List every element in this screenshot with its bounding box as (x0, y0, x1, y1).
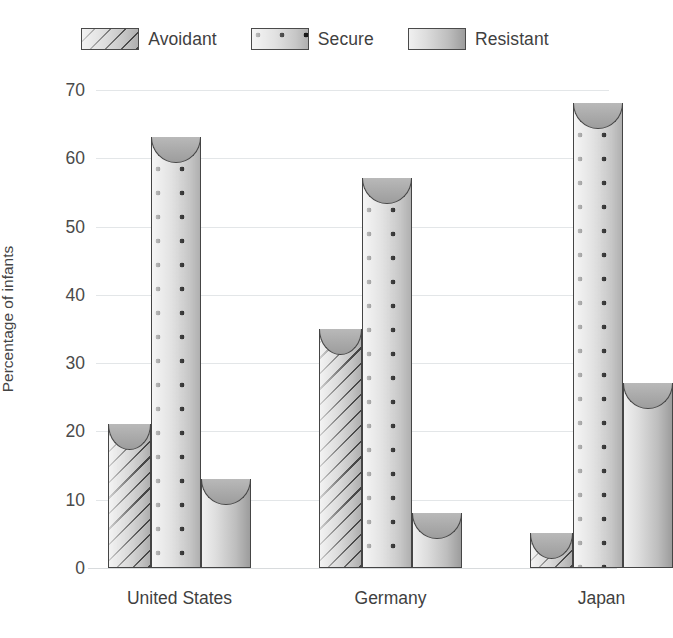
chart-legend: Avoidant Secure Resistant (0, 28, 630, 50)
bar-cylinder-cap (108, 424, 152, 450)
y-axis-tick-label: 0 (75, 558, 85, 579)
resistant-swatch-icon (408, 28, 466, 50)
y-axis-tick-label: 70 (66, 80, 85, 101)
y-axis-tick-label: 40 (66, 284, 85, 305)
bar-resistant-japan[interactable] (623, 384, 673, 568)
bar-resistant-germany[interactable] (412, 513, 462, 568)
bar-avoidant-japan[interactable] (530, 534, 573, 568)
bar-cylinder-cap (412, 513, 463, 539)
legend-item-resistant: Resistant (408, 28, 549, 50)
bar-avoidant-germany[interactable] (319, 329, 362, 568)
bar-cylinder-cap (201, 479, 252, 505)
bar-group (530, 90, 673, 568)
legend-item-avoidant: Avoidant (81, 28, 217, 50)
legend-label-avoidant: Avoidant (148, 29, 217, 50)
bar-cylinder-cap (573, 103, 624, 129)
y-axis-label: Percentage of infants (0, 199, 17, 439)
bar-group (108, 90, 251, 568)
legend-label-resistant: Resistant (475, 29, 549, 50)
bar-cylinder-cap (151, 137, 202, 163)
bar-resistant-united-states[interactable] (201, 479, 251, 568)
secure-swatch-icon (251, 28, 309, 50)
x-axis-tick-label: Japan (578, 588, 626, 609)
plot-area: 010203040506070 United StatesGermanyJapa… (96, 90, 609, 568)
y-axis-tick-label: 30 (66, 353, 85, 374)
bar-group (319, 90, 462, 568)
y-axis-tick-label: 60 (66, 148, 85, 169)
bar-avoidant-united-states[interactable] (108, 425, 151, 568)
legend-item-secure: Secure (251, 28, 374, 50)
y-axis-tick-label: 10 (66, 489, 85, 510)
avoidant-swatch-icon (81, 28, 139, 50)
x-axis-tick-label: Germany (355, 588, 427, 609)
bar-cylinder-cap (319, 329, 363, 355)
y-axis-tick-label: 20 (66, 421, 85, 442)
bar-cylinder-cap (362, 178, 413, 204)
bar-cylinder-cap (530, 533, 574, 559)
bar-secure-united-states[interactable] (151, 138, 201, 568)
bar-cylinder-cap (623, 383, 673, 409)
bar-secure-germany[interactable] (362, 179, 412, 568)
x-axis-tick-label: United States (127, 588, 232, 609)
y-axis-tick-label: 50 (66, 216, 85, 237)
bar-secure-japan[interactable] (573, 104, 623, 568)
legend-label-secure: Secure (318, 29, 374, 50)
